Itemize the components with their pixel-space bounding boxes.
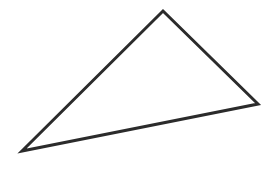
triangle-shape (22, 11, 258, 151)
figure-canvas (0, 0, 277, 184)
triangle-figure (0, 0, 277, 184)
